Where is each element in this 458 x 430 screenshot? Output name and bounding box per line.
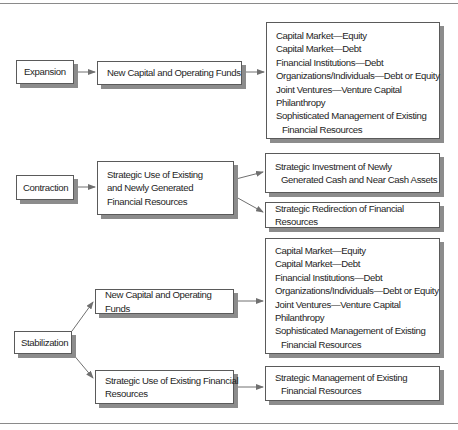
strategy-label: New Capital and Operating Funds (107, 66, 241, 79)
outcome-line: Strategic Investment of Newly (275, 160, 439, 173)
list-item: Philanthropy (276, 96, 439, 109)
strategy-line: Financial Resources (107, 195, 233, 208)
list-item: Sophisticated Management of Existing (275, 324, 439, 337)
strategy-line: Strategic Use of Existing Financial (105, 374, 233, 387)
arrow-contraction-to-investment (236, 172, 263, 179)
expansion-funding-sources: Capital Market—Equity Capital Market—Deb… (266, 22, 440, 139)
outcome-line: Strategic Management of Existing (275, 371, 439, 384)
list-item: Capital Market—Equity (275, 244, 439, 257)
outcome-line: Strategic Redirection of Financial Resou… (275, 202, 439, 229)
stage-stabilization: Stabilization (14, 331, 72, 354)
list-item: Capital Market—Debt (275, 257, 439, 270)
stabilization-management: Strategic Management of Existing Financi… (265, 366, 440, 401)
stage-label: Contraction (23, 181, 68, 194)
strategy-line: Resources (105, 387, 233, 400)
list-item: Capital Market—Equity (276, 29, 439, 42)
stage-label: Expansion (24, 65, 66, 78)
stage-expansion: Expansion (16, 60, 74, 84)
list-item: Philanthropy (275, 311, 439, 324)
list-item: Sophisticated Management of Existing (276, 109, 439, 122)
arrow-stabilization-to-existing (72, 353, 93, 378)
stabilization-new-capital: New Capital and Operating Funds (95, 289, 234, 314)
contraction-investment: Strategic Investment of Newly Generated … (265, 153, 440, 193)
list-item: Financial Institutions—Debt (275, 271, 439, 284)
strategy-line: Strategic Use of Existing (107, 168, 233, 181)
strategy-label: New Capital and Operating Funds (105, 288, 233, 315)
arrow-contraction-to-redirection (236, 197, 263, 212)
list-item: Financial Institutions—Debt (276, 56, 439, 69)
top-rule (0, 3, 458, 4)
arrow-stabilization-to-newcapital (72, 302, 93, 331)
list-item: Financial Resources (276, 123, 439, 136)
contraction-redirection: Strategic Redirection of Financial Resou… (265, 202, 440, 228)
stage-contraction: Contraction (16, 175, 74, 200)
list-item: Organizations/Individuals—Debt or Equity (275, 284, 439, 297)
list-item: Joint Ventures—Venture Capital (276, 83, 439, 96)
outcome-line: Generated Cash and Near Cash Assets (275, 173, 439, 186)
stabilization-existing-resources: Strategic Use of Existing Financial Reso… (95, 370, 234, 404)
expansion-strategy: New Capital and Operating Funds (97, 61, 242, 85)
stage-label: Stabilization (21, 336, 68, 349)
strategy-line: and Newly Generated (107, 181, 233, 194)
list-item: Capital Market—Debt (276, 42, 439, 55)
stabilization-funding-sources: Capital Market—Equity Capital Market—Deb… (265, 238, 440, 354)
contraction-strategy: Strategic Use of Existing and Newly Gene… (97, 161, 234, 215)
outcome-line: Financial Resources (275, 384, 439, 397)
list-item: Financial Resources (275, 338, 439, 351)
list-item: Joint Ventures—Venture Capital (275, 298, 439, 311)
bottom-rule (0, 423, 458, 424)
list-item: Organizations/Individuals—Debt or Equity (276, 69, 439, 82)
